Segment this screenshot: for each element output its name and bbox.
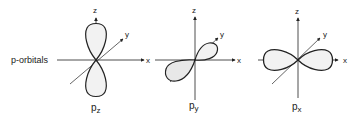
upper-lobe bbox=[86, 24, 107, 61]
right-lobe bbox=[298, 50, 333, 71]
orbital-px: x y z px bbox=[258, 7, 347, 114]
orbital-pz: x y z pz bbox=[57, 6, 150, 115]
orbital-label-pz: pz bbox=[91, 102, 101, 115]
z-axis-label: z bbox=[295, 7, 299, 16]
y-axis-label: y bbox=[220, 30, 224, 39]
row-label: p-orbitals bbox=[11, 55, 49, 65]
y-axis-label: y bbox=[125, 30, 129, 39]
x-axis-label: x bbox=[237, 56, 241, 65]
x-axis-label: x bbox=[146, 56, 150, 65]
z-axis-label: z bbox=[93, 6, 97, 15]
x-axis-label: x bbox=[343, 56, 347, 65]
lower-lobe bbox=[86, 60, 107, 97]
z-axis-label: z bbox=[192, 6, 196, 15]
left-lobe bbox=[264, 50, 299, 71]
p-orbitals-diagram: p-orbitals x y z pz x y z py x y z bbox=[0, 0, 357, 118]
orbital-label-py: py bbox=[189, 100, 199, 113]
front-lobe bbox=[195, 43, 218, 60]
back-lobe bbox=[165, 60, 195, 81]
y-axis-label: y bbox=[323, 30, 327, 39]
orbital-label-px: px bbox=[292, 101, 302, 114]
orbital-py: x y z py bbox=[155, 6, 241, 113]
